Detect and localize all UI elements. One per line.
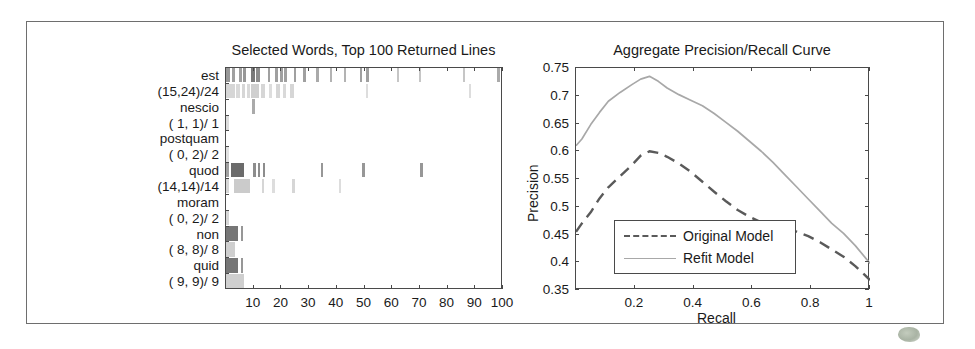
pr-ytick-mark-right xyxy=(865,95,869,96)
pr-ytick-label: 0.75 xyxy=(509,60,569,75)
legend-item-original-model: Original Model xyxy=(624,228,773,244)
raster-ytick-label: ( 9, 9)/ 9 xyxy=(89,274,219,289)
figure-frame: Selected Words, Top 100 Returned Lines e… xyxy=(26,21,944,324)
raster-xtick-mark xyxy=(502,285,503,289)
raster-mark xyxy=(497,68,500,83)
raster-mark xyxy=(226,115,229,130)
raster-xtick-label: 10 xyxy=(245,295,260,310)
left-panel-axes xyxy=(225,67,502,289)
legend-label-refit-model: Refit Model xyxy=(683,250,754,266)
raster-mark xyxy=(275,68,278,83)
pr-y-axis-label: Precision xyxy=(525,164,541,222)
raster-mark xyxy=(339,179,342,194)
raster-xtick-label: 70 xyxy=(411,295,426,310)
raster-xtick-mark xyxy=(364,285,365,289)
pr-ytick-mark-right xyxy=(865,261,869,262)
raster-mark xyxy=(330,68,332,83)
raster-xtick-label: 50 xyxy=(356,295,371,310)
raster-mark xyxy=(231,163,245,178)
left-panel-title: Selected Words, Top 100 Returned Lines xyxy=(225,42,502,58)
raster-ytick-label: ( 0, 2)/ 2 xyxy=(89,147,219,162)
raster-ytick-mark xyxy=(225,273,229,274)
pr-x-axis-label: Recall xyxy=(697,310,736,326)
raster-mark xyxy=(226,274,244,289)
legend-item-refit-model: Refit Model xyxy=(624,250,754,266)
pr-ytick-mark-right xyxy=(865,150,869,151)
raster-xtick-mark xyxy=(419,285,420,289)
raster-ytick-label: est xyxy=(89,67,219,82)
raster-ytick-mark xyxy=(225,241,229,242)
raster-xtick-mark-top xyxy=(364,67,365,71)
raster-ytick-label: ( 0, 2)/ 2 xyxy=(89,210,219,225)
raster-xtick-mark-top xyxy=(502,67,503,71)
pr-xtick-mark-top xyxy=(810,67,811,71)
raster-xtick-mark xyxy=(308,285,309,289)
pr-ytick-label: 0.65 xyxy=(509,115,569,130)
pr-ytick-mark xyxy=(575,261,579,262)
raster-ytick-mark xyxy=(225,146,229,147)
raster-xtick-mark xyxy=(447,285,448,289)
raster-mark xyxy=(344,68,346,83)
raster-mark xyxy=(232,68,235,83)
pr-xtick-mark xyxy=(869,285,870,289)
pr-xtick-mark xyxy=(751,285,752,289)
raster-mark xyxy=(226,242,235,257)
raster-ytick-mark xyxy=(225,210,229,211)
pr-legend: Original Model Refit Model xyxy=(614,220,796,274)
raster-xtick-mark xyxy=(391,285,392,289)
raster-mark xyxy=(226,68,229,83)
raster-xtick-mark-top xyxy=(336,67,337,71)
legend-swatch-dashed xyxy=(624,235,676,237)
pr-ytick-mark xyxy=(575,67,579,68)
raster-mark xyxy=(226,226,238,241)
raster-mark xyxy=(261,84,265,99)
pr-xtick-mark-top xyxy=(693,67,694,71)
pr-ytick-mark xyxy=(575,95,579,96)
pr-ytick-label: 0.4 xyxy=(509,254,569,269)
raster-mark xyxy=(292,179,295,194)
legend-label-original-model: Original Model xyxy=(683,228,773,244)
raster-mark xyxy=(241,226,244,241)
raster-ytick-label: quid xyxy=(89,258,219,273)
pr-ytick-mark-right xyxy=(865,206,869,207)
raster-xtick-mark-top xyxy=(280,67,281,71)
raster-ytick-mark xyxy=(225,83,229,84)
raster-mark xyxy=(243,68,246,83)
raster-mark xyxy=(321,163,324,178)
right-panel-title: Aggregate Precision/Recall Curve xyxy=(575,42,869,58)
raster-mark xyxy=(258,163,261,178)
raster-xtick-mark xyxy=(280,285,281,289)
raster-mark xyxy=(366,84,369,99)
raster-xtick-mark-top xyxy=(419,67,420,71)
raster-mark xyxy=(283,84,286,99)
pr-xtick-mark-top xyxy=(869,67,870,71)
scan-smudge-artifact xyxy=(898,327,920,342)
raster-mark xyxy=(269,84,272,99)
raster-mark xyxy=(420,163,423,178)
raster-ytick-mark xyxy=(225,226,229,227)
raster-xtick-mark xyxy=(474,285,475,289)
pr-ytick-label: 0.35 xyxy=(509,282,569,297)
raster-xtick-label: 60 xyxy=(384,295,399,310)
pr-xtick-label: 0.4 xyxy=(683,295,702,310)
raster-mark xyxy=(253,163,256,178)
pr-ytick-mark-right xyxy=(865,289,869,290)
pr-ytick-label: 0.7 xyxy=(509,87,569,102)
raster-mark xyxy=(463,68,465,83)
pr-xtick-mark-top xyxy=(634,67,635,71)
raster-ytick-label: moram xyxy=(89,194,219,209)
pr-ytick-mark xyxy=(575,150,579,151)
raster-mark xyxy=(263,163,266,178)
raster-xtick-mark xyxy=(253,285,254,289)
raster-ytick-label: ( 1, 1)/ 1 xyxy=(89,115,219,130)
raster-mark xyxy=(284,68,287,83)
raster-mark xyxy=(239,68,242,83)
raster-xtick-mark-top xyxy=(447,67,448,71)
raster-mark xyxy=(234,179,250,194)
raster-mark xyxy=(247,84,250,99)
raster-mark xyxy=(226,163,229,178)
raster-mark xyxy=(366,68,369,83)
left-panel-raster: Selected Words, Top 100 Returned Lines e… xyxy=(27,22,507,325)
pr-ytick-label: 0.45 xyxy=(509,226,569,241)
pr-ytick-mark-right xyxy=(865,234,869,235)
